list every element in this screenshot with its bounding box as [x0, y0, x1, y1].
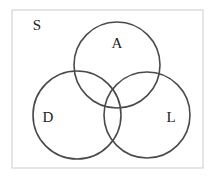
universe-label-s: S: [33, 17, 41, 33]
set-label-l: L: [166, 109, 175, 125]
venn-diagram: S A D L: [0, 0, 210, 176]
set-label-d: D: [43, 109, 54, 125]
set-label-a: A: [112, 35, 123, 51]
